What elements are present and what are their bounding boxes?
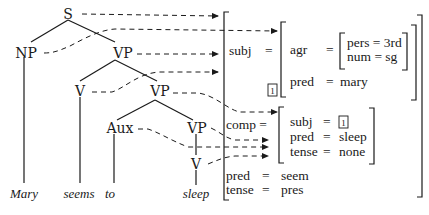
comp-label: comp = (226, 117, 267, 132)
node-vp: VP (112, 45, 133, 61)
leaf-sleep: sleep (183, 186, 210, 201)
pred-equals: = (262, 168, 270, 183)
comp-pred-label: pred (290, 129, 314, 144)
node-vp-lower: VP (186, 120, 207, 136)
pred-label: pred (226, 168, 250, 183)
comp-pred-value: sleep (339, 129, 367, 144)
agr-left-bracket (340, 33, 345, 69)
comp-tense-equals: = (323, 144, 331, 159)
agr-equals: = (326, 42, 334, 57)
comp-subj-tag-number: 1 (341, 118, 346, 128)
agr-num: num = sg (347, 49, 398, 64)
pred-value: seem (281, 168, 309, 183)
agr-right-bracket (402, 33, 407, 70)
node-vp-embedded: VP (149, 83, 170, 99)
node-v: V (74, 83, 86, 99)
leaf-seems: seems (63, 186, 94, 201)
edge-vp-v (80, 60, 115, 81)
comp-left-bracket (279, 107, 284, 163)
arrow-s-to-fstructure (82, 14, 218, 16)
tense-label: tense (226, 182, 254, 197)
leaf-mary: Mary (9, 186, 38, 201)
edge-vp-vp (115, 60, 157, 81)
comp-subj-equals: = (323, 114, 331, 129)
tree-nodes: S NP VP V VP Aux VP V (15, 6, 207, 172)
tree-edges (24, 20, 196, 185)
subj-equals: = (265, 43, 273, 58)
outer-right-bracket (417, 15, 422, 197)
comp-right-bracket (369, 108, 374, 164)
subj-pred-label: pred (290, 74, 314, 89)
subj-left-bracket (281, 22, 286, 97)
edge-s-np (31, 20, 68, 42)
node-np: NP (15, 45, 37, 61)
leaf-to: to (105, 186, 116, 201)
c-structure-f-structure-diagram: S NP VP V VP Aux VP V Mary seems to slee… (0, 0, 429, 215)
subj-right-bracket (411, 25, 416, 100)
tense-value: pres (281, 182, 304, 197)
arrow-v-lower-to-comp (208, 156, 268, 164)
agr-label: agr (290, 42, 308, 57)
tense-equals: = (262, 182, 270, 197)
tree-leaves: Mary seems to sleep (9, 186, 210, 201)
comp-tense-label: tense (290, 144, 318, 159)
agr-pers: pers = 3rd (347, 35, 402, 50)
subj-tag-number: 1 (270, 86, 275, 96)
edge-s-vp (68, 20, 115, 42)
comp-subj-label: subj (290, 114, 313, 129)
node-aux: Aux (105, 120, 133, 136)
subj-pred-value: mary (340, 74, 368, 89)
arrow-vp-to-comp (173, 93, 277, 112)
node-s: S (63, 6, 73, 22)
edge-vp-aux (117, 100, 155, 120)
f-structure: subj = 1 agr = pers = 3rd num = sg pred … (224, 12, 422, 200)
subj-label: subj (229, 43, 252, 58)
subj-pred-equals: = (326, 74, 334, 89)
comp-tense-value: none (339, 144, 365, 159)
comp-pred-equals: = (323, 129, 331, 144)
edge-vp-vp2 (155, 100, 193, 120)
node-v-lower: V (190, 156, 202, 172)
